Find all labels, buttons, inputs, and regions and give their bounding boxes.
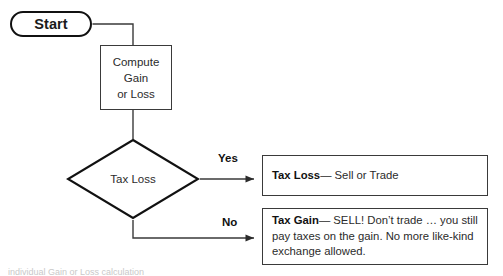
node-process-line-3: or Loss bbox=[117, 86, 155, 102]
node-process-line-2: Gain bbox=[124, 70, 148, 86]
outcome-tax-loss-body: Sell or Trade bbox=[335, 169, 399, 181]
node-decision-tax-loss: Tax Loss bbox=[66, 138, 200, 220]
arrowhead-yes bbox=[246, 176, 255, 183]
branch-label-no: No bbox=[222, 216, 237, 228]
caption-sliver-text: individual Gain or Loss calculation bbox=[8, 268, 218, 276]
outcome-tax-gain-text: Tax Gain— SELL! Don’t trade … you still … bbox=[272, 213, 478, 260]
caption-sliver: individual Gain or Loss calculation bbox=[8, 268, 218, 276]
outcome-tax-loss-dash: — bbox=[320, 169, 331, 181]
outcome-tax-gain-body-line-1: SELL! Don’t trade … you still bbox=[333, 214, 477, 226]
outcome-tax-gain-heading: Tax Gain bbox=[272, 214, 319, 226]
outcome-tax-gain-dash: — bbox=[319, 214, 330, 226]
connector-start-to-process bbox=[93, 24, 134, 45]
node-compute-gain-or-loss: Compute Gain or Loss bbox=[100, 45, 172, 110]
outcome-tax-loss-text: Tax Loss— Sell or Trade bbox=[272, 168, 478, 184]
node-outcome-tax-loss: Tax Loss— Sell or Trade bbox=[262, 155, 488, 196]
node-decision-label: Tax Loss bbox=[66, 138, 200, 220]
node-process-line-1: Compute bbox=[113, 54, 160, 70]
node-start-label: Start bbox=[34, 17, 68, 32]
arrowhead-no bbox=[246, 235, 255, 242]
outcome-tax-gain-body-line-3: exchange allowed. bbox=[272, 245, 366, 257]
outcome-tax-loss-heading: Tax Loss bbox=[272, 169, 320, 181]
branch-label-yes: Yes bbox=[218, 152, 238, 164]
node-outcome-tax-gain: Tax Gain— SELL! Don’t trade … you still … bbox=[262, 208, 488, 265]
node-start: Start bbox=[10, 11, 92, 37]
outcome-tax-gain-body-line-2: pay taxes on the gain. No more like-kind bbox=[272, 230, 474, 242]
flowchart-canvas: Start Compute Gain or Loss Tax Loss Yes … bbox=[0, 0, 503, 276]
